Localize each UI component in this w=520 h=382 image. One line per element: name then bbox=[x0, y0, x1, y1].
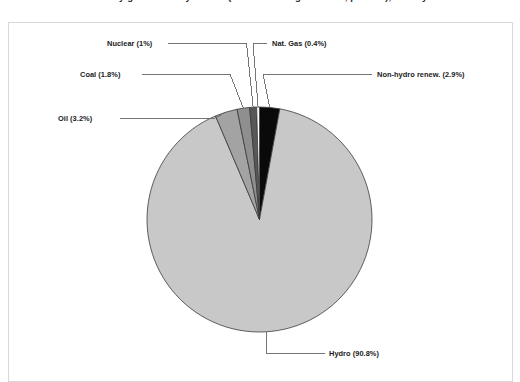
pie-slices bbox=[147, 107, 372, 332]
slice-label-nuclear: Nuclear (1%) bbox=[107, 39, 152, 48]
leader-line-hydro bbox=[266, 332, 325, 353]
leader-line-coal bbox=[142, 74, 243, 108]
slice-label-non-hydro-renew: Non-hydro renew. (2.9%) bbox=[377, 70, 465, 79]
slice-label-oil: Oil (3.2%) bbox=[58, 114, 92, 123]
leader-line-non-hydro-renew bbox=[263, 74, 372, 107]
slice-label-nat-gas: Nat. Gas (0.4%) bbox=[272, 39, 327, 48]
slice-label-coal: Coal (1.8%) bbox=[80, 70, 120, 79]
leader-line-nat-gas bbox=[253, 43, 267, 107]
leader-line-nuclear bbox=[168, 43, 253, 107]
slice-label-hydro: Hydro (90.8%) bbox=[329, 349, 379, 358]
leader-line-oil bbox=[120, 112, 226, 118]
